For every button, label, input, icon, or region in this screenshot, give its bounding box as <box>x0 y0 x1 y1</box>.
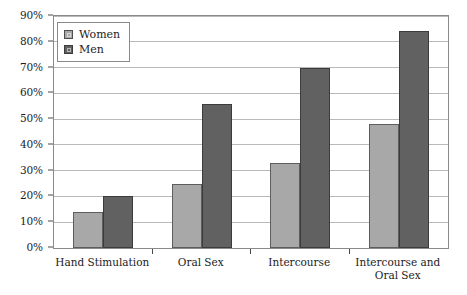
bar-women-oral-sex <box>172 184 202 248</box>
x-axis-label: Oral Sex <box>178 256 224 269</box>
x-axis-label-line: Intercourse and <box>355 256 440 268</box>
bar-men-intercourse-and-oral-sex <box>399 31 429 248</box>
y-tick-label: 10% <box>20 215 43 227</box>
y-tick-label: 60% <box>20 86 43 98</box>
x-axis-label-line: Hand Stimulation <box>55 256 149 268</box>
y-axis: 0%10%20%30%40%50%60%70%80%90% <box>0 0 53 295</box>
legend-item-women: Women <box>64 27 120 42</box>
legend-item-men: Men <box>64 42 120 57</box>
x-axis-label-line: Oral Sex <box>178 256 224 268</box>
bar-women-hand-stimulation <box>73 212 103 248</box>
bar-men-hand-stimulation <box>103 196 133 248</box>
y-tick-label: 90% <box>20 9 43 21</box>
bar-men-oral-sex <box>202 104 232 248</box>
x-axis: Hand StimulationOral SexIntercourseInter… <box>53 249 449 295</box>
bar-chart: 0%10%20%30%40%50%60%70%80%90% Hand Stimu… <box>0 0 467 295</box>
chart-legend: Women Men <box>57 22 130 62</box>
x-axis-label: Intercourse andOral Sex <box>355 256 440 282</box>
bar-group <box>153 16 252 248</box>
bar-group <box>350 16 449 248</box>
y-tick-label: 20% <box>20 189 43 201</box>
y-tick-label: 70% <box>20 61 43 73</box>
bar-men-intercourse <box>300 68 330 248</box>
y-tick-label: 50% <box>20 112 43 124</box>
legend-label-men: Men <box>79 43 104 56</box>
women-swatch-icon <box>64 30 73 39</box>
x-axis-label: Hand Stimulation <box>55 256 149 269</box>
bar-group <box>251 16 350 248</box>
legend-label-women: Women <box>79 28 120 41</box>
y-tick-label: 40% <box>20 138 43 150</box>
x-tick-mark <box>349 249 350 254</box>
x-axis-label-line: Intercourse <box>268 256 330 268</box>
x-tick-mark <box>152 249 153 254</box>
bar-women-intercourse <box>270 163 300 248</box>
y-tick-label: 0% <box>27 241 43 253</box>
y-tick-label: 80% <box>20 35 43 47</box>
x-axis-label-line: Oral Sex <box>355 269 440 282</box>
men-swatch-icon <box>64 45 73 54</box>
x-axis-label: Intercourse <box>268 256 330 269</box>
y-tick-label: 30% <box>20 164 43 176</box>
bar-women-intercourse-and-oral-sex <box>369 124 399 248</box>
x-tick-mark <box>250 249 251 254</box>
